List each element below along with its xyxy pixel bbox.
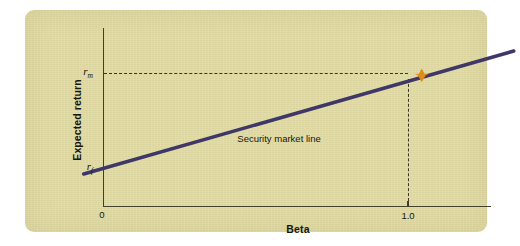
market-portfolio-marker	[415, 69, 429, 83]
y-axis-title: Expected return	[72, 79, 83, 160]
rm-subscript: m	[88, 71, 93, 80]
security-market-line-path	[84, 51, 514, 174]
chart-panel: Expected return Beta Security market lin…	[25, 10, 487, 232]
y-tick-label-rm: rm	[83, 66, 96, 80]
y-axis-line	[103, 28, 104, 207]
x-tick-label-1.0: 1.0	[401, 211, 414, 221]
x-tick-label-0: 0	[99, 210, 104, 220]
beta-one-vertical-guide	[408, 79, 409, 206]
sml-annotation-label: Security market line	[237, 134, 320, 144]
x-axis-title: Beta	[286, 224, 310, 235]
x-axis-line	[103, 206, 491, 207]
rm-horizontal-guide	[104, 73, 408, 74]
y-tick-label-rf: rf	[87, 161, 96, 175]
rf-subscript: f	[91, 166, 93, 175]
